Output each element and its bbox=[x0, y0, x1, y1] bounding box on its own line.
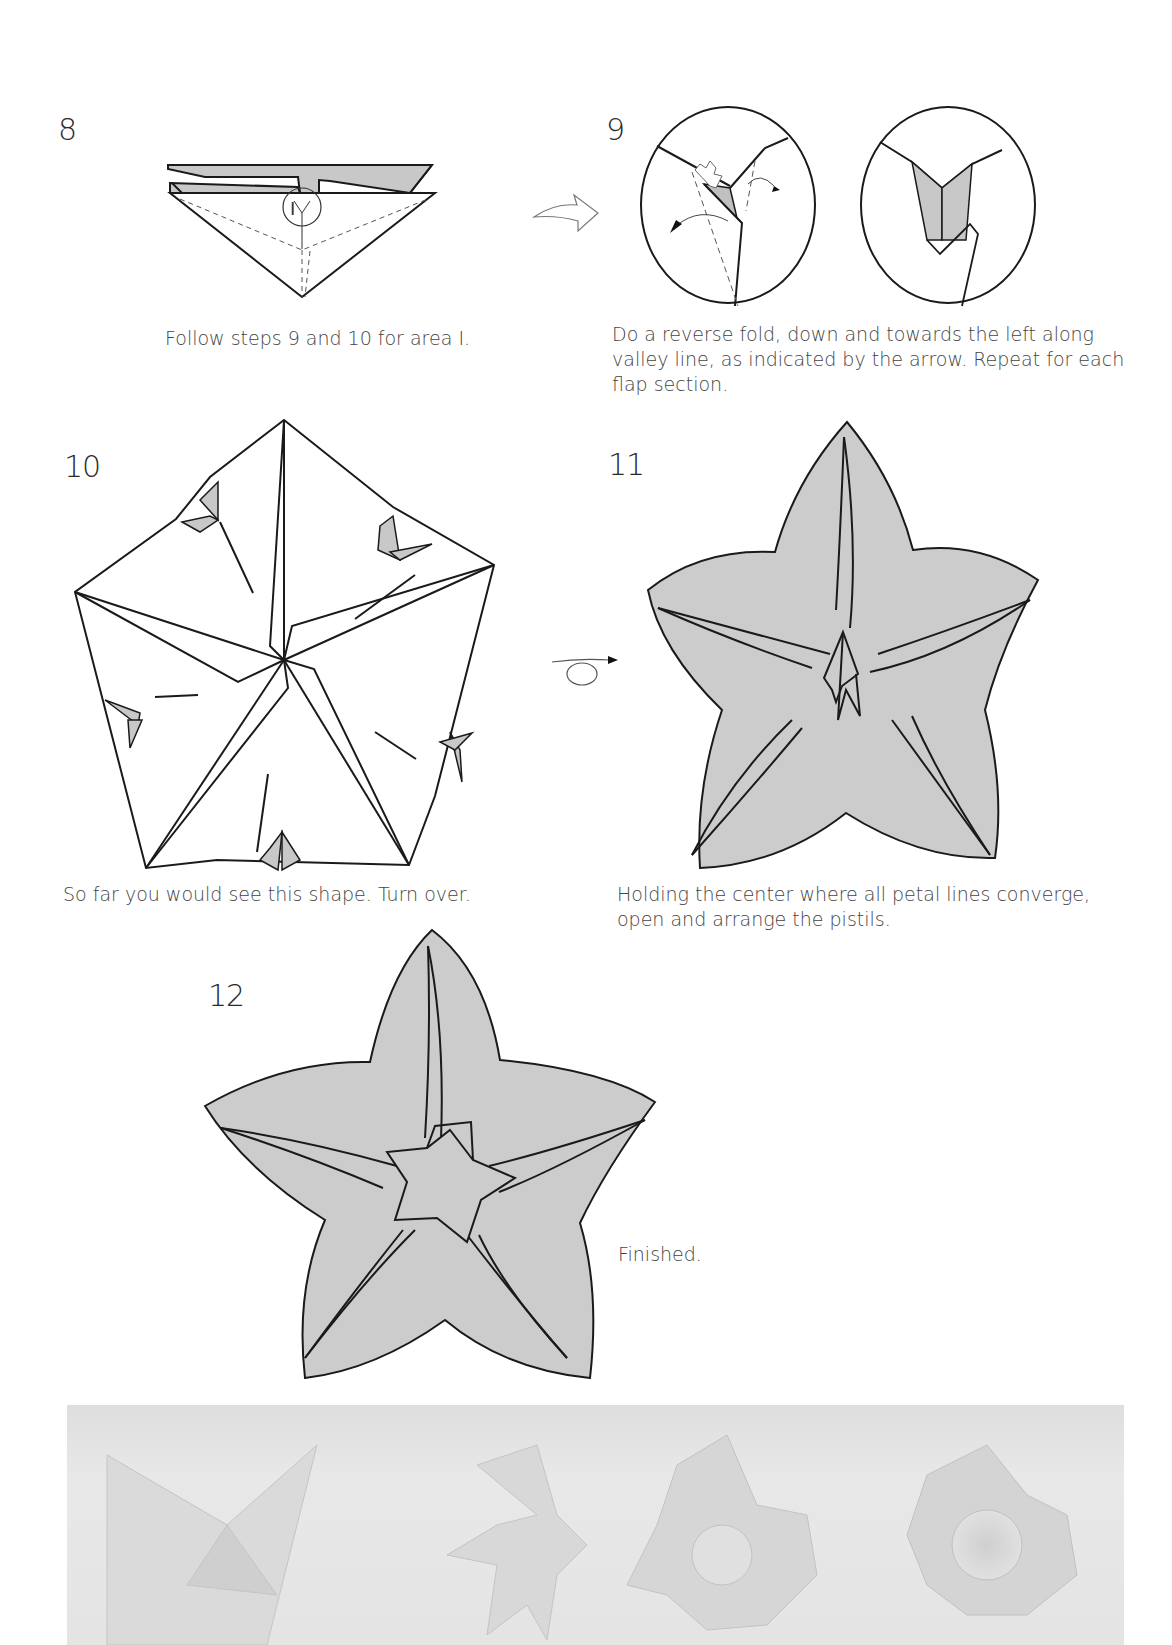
step-9-number: 9 bbox=[606, 112, 624, 147]
turn-over-arrow-icon bbox=[550, 650, 640, 690]
step-11-caption: Holding the center where all petal lines… bbox=[617, 882, 1127, 932]
area-I-label: I bbox=[290, 198, 295, 219]
finished-flowers-photo bbox=[67, 1405, 1124, 1645]
step-8-caption: Follow steps 9 and 10 for area I. bbox=[165, 326, 470, 351]
step-9-diagram-before bbox=[640, 106, 820, 306]
flower-photo-4 bbox=[907, 1445, 1077, 1615]
step-9-diagram-after bbox=[852, 106, 1042, 306]
step-8-diagram bbox=[170, 165, 470, 335]
step-8-number: 8 bbox=[58, 112, 76, 147]
step-11-diagram bbox=[650, 420, 1050, 870]
step-9-caption: Do a reverse fold, down and towards the … bbox=[612, 322, 1132, 397]
step-11-number: 11 bbox=[608, 447, 644, 482]
flower-photo-3 bbox=[627, 1435, 817, 1630]
flower-photo-2 bbox=[447, 1445, 587, 1640]
step-12-caption: Finished. bbox=[618, 1242, 702, 1267]
step-12-diagram bbox=[205, 930, 665, 1370]
step-10-diagram bbox=[60, 420, 520, 870]
step-10-caption: So far you would see this shape. Turn ov… bbox=[63, 882, 471, 907]
flower-photo-1 bbox=[107, 1445, 317, 1645]
hollow-curved-arrow-icon bbox=[532, 193, 602, 235]
